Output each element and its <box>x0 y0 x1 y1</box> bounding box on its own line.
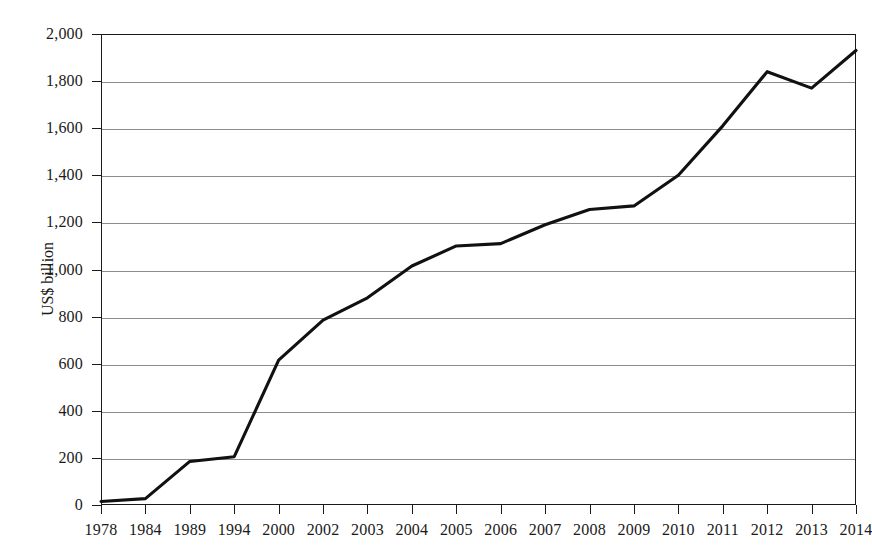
x-tick-label-2002: 2002 <box>307 521 340 539</box>
series-line-us-dollar-billion <box>101 50 856 501</box>
x-tick-mark-2011 <box>723 505 724 514</box>
y-tick-mark-2000 <box>92 34 101 35</box>
y-tick-label-1200: 1,200 <box>46 213 83 231</box>
x-tick-label-2006: 2006 <box>484 521 517 539</box>
y-tick-label-400: 400 <box>58 402 83 420</box>
x-tick-label-1989: 1989 <box>173 521 206 539</box>
x-tick-mark-2008 <box>590 505 591 514</box>
x-tick-label-2003: 2003 <box>351 521 384 539</box>
y-tick-label-200: 200 <box>58 449 83 467</box>
x-tick-label-1984: 1984 <box>129 521 162 539</box>
x-tick-label-2004: 2004 <box>395 521 428 539</box>
y-axis: 02004006008001,0001,2001,4001,6001,8002,… <box>0 0 101 557</box>
x-tick-label-2009: 2009 <box>618 521 651 539</box>
x-tick-label-2005: 2005 <box>440 521 473 539</box>
y-tick-mark-800 <box>92 317 101 318</box>
x-axis: 1978198419891994200020022003200420052006… <box>0 505 870 557</box>
x-tick-label-2007: 2007 <box>529 521 562 539</box>
x-tick-label-2012: 2012 <box>751 521 784 539</box>
x-tick-mark-2009 <box>634 505 635 514</box>
x-tick-mark-1978 <box>101 505 102 514</box>
x-tick-mark-2002 <box>323 505 324 514</box>
y-tick-label-2000: 2,000 <box>46 25 83 43</box>
x-tick-mark-2010 <box>678 505 679 514</box>
x-tick-mark-2000 <box>279 505 280 514</box>
x-tick-label-2010: 2010 <box>662 521 695 539</box>
y-tick-mark-400 <box>92 411 101 412</box>
y-tick-label-1800: 1,800 <box>46 72 83 90</box>
x-tick-label-1978: 1978 <box>85 521 118 539</box>
x-tick-mark-1989 <box>190 505 191 514</box>
x-tick-mark-2005 <box>456 505 457 514</box>
x-tick-mark-2014 <box>856 505 857 514</box>
data-series-layer <box>101 34 856 505</box>
y-tick-mark-1400 <box>92 175 101 176</box>
x-tick-mark-2006 <box>501 505 502 514</box>
y-tick-mark-1200 <box>92 222 101 223</box>
x-tick-label-2014: 2014 <box>840 521 872 539</box>
y-tick-label-800: 800 <box>58 308 83 326</box>
y-tick-mark-200 <box>92 458 101 459</box>
x-tick-mark-1984 <box>145 505 146 514</box>
x-tick-label-2008: 2008 <box>573 521 606 539</box>
x-tick-mark-2007 <box>545 505 546 514</box>
x-tick-label-2000: 2000 <box>262 521 295 539</box>
x-tick-label-1994: 1994 <box>218 521 251 539</box>
y-tick-mark-1800 <box>92 81 101 82</box>
y-tick-mark-1600 <box>92 128 101 129</box>
x-tick-mark-2013 <box>812 505 813 514</box>
y-tick-label-1000: 1,000 <box>46 261 83 279</box>
y-tick-label-600: 600 <box>58 355 83 373</box>
y-tick-label-1400: 1,400 <box>46 166 83 184</box>
x-tick-mark-2012 <box>767 505 768 514</box>
y-tick-mark-600 <box>92 364 101 365</box>
x-tick-label-2011: 2011 <box>707 521 739 539</box>
y-tick-label-1600: 1,600 <box>46 119 83 137</box>
x-tick-mark-1994 <box>234 505 235 514</box>
x-tick-label-2013: 2013 <box>795 521 828 539</box>
x-tick-mark-2004 <box>412 505 413 514</box>
y-tick-mark-1000 <box>92 270 101 271</box>
x-tick-mark-2003 <box>367 505 368 514</box>
